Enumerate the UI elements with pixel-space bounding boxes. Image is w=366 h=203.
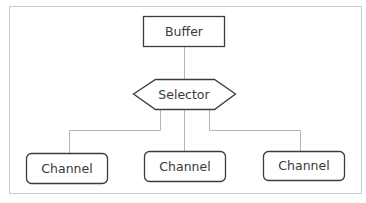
channel-node-3: Channel (264, 152, 345, 181)
buffer-label: Buffer (165, 24, 204, 39)
diagram-canvas: Buffer Selector Channel Channel Channel (0, 0, 366, 203)
selector-node: Selector (134, 80, 236, 110)
channel-label-1: Channel (41, 161, 92, 176)
channel-node-2: Channel (145, 152, 226, 182)
channel-label-3: Channel (278, 158, 329, 173)
selector-label: Selector (158, 87, 210, 102)
channel-label-2: Channel (159, 159, 210, 174)
buffer-node: Buffer (144, 17, 225, 47)
channel-node-1: Channel (27, 154, 108, 184)
